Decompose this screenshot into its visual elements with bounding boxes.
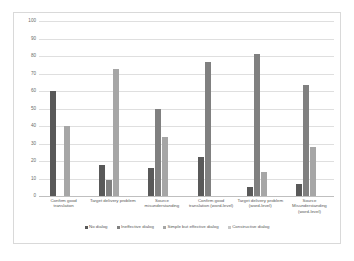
chart-container: 1009080706050403020100 Confirm good tran… [13, 12, 341, 244]
plot-area: 1009080706050403020100 [39, 21, 334, 196]
legend-item-label: No dialog [89, 225, 108, 229]
bar[interactable] [198, 157, 204, 196]
y-axis-tick-label: 10 [31, 176, 36, 181]
bar[interactable] [50, 91, 56, 196]
bar[interactable] [148, 168, 154, 196]
y-axis-tick-label: 70 [31, 71, 36, 76]
bar[interactable] [162, 137, 168, 196]
bar[interactable] [205, 62, 211, 196]
legend-item-label: Simple but effective dialog [167, 225, 218, 229]
bar-group [39, 21, 88, 196]
y-axis-tick-label: 50 [31, 106, 36, 111]
legend-item[interactable]: No dialog [85, 225, 108, 229]
chart-legend: No dialogIneffective dialogSimple but ef… [14, 225, 340, 229]
y-axis-tick-label: 60 [31, 89, 36, 94]
y-axis-tick-label: 80 [31, 54, 36, 59]
legend-swatch-icon [85, 226, 88, 229]
legend-item[interactable]: Constructive dialog [228, 225, 270, 229]
legend-swatch-icon [117, 226, 120, 229]
legend-item-label: Constructive dialog [232, 225, 269, 229]
legend-swatch-icon [163, 226, 166, 229]
bar[interactable] [303, 85, 309, 196]
bar-group [88, 21, 137, 196]
y-axis-tick-label: 40 [31, 124, 36, 129]
bar-group [236, 21, 285, 196]
bar[interactable] [113, 69, 119, 196]
y-axis-tick-label: 0 [33, 194, 36, 199]
y-axis-tick-label: 90 [31, 36, 36, 41]
bar-groups [39, 21, 334, 196]
bar[interactable] [106, 180, 112, 196]
bar[interactable] [155, 109, 161, 196]
bar-group [285, 21, 334, 196]
bar-group [187, 21, 236, 196]
legend-item[interactable]: Ineffective dialog [117, 225, 154, 229]
legend-swatch-icon [228, 226, 231, 229]
y-axis-tick-label: 100 [28, 19, 36, 24]
chart-plot-wrapper: 1009080706050403020100 Confirm good tran… [14, 13, 340, 243]
gridline [39, 196, 334, 197]
bar[interactable] [247, 187, 253, 196]
bar[interactable] [296, 184, 302, 196]
bar[interactable] [64, 126, 70, 196]
legend-item[interactable]: Simple but effective dialog [163, 225, 219, 229]
bar-group [137, 21, 186, 196]
bar[interactable] [99, 165, 105, 197]
y-axis-tick-label: 20 [31, 159, 36, 164]
bar[interactable] [254, 54, 260, 196]
bar[interactable] [310, 147, 316, 196]
legend-item-label: Ineffective dialog [121, 225, 154, 229]
bar[interactable] [261, 172, 267, 197]
y-axis-tick-label: 30 [31, 141, 36, 146]
